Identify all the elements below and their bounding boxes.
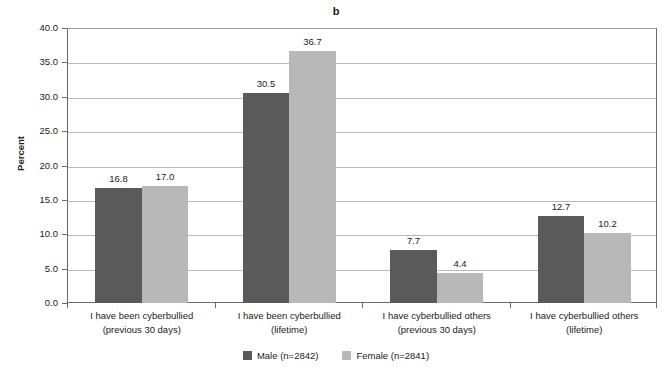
- legend-item-male[interactable]: Male (n=2842): [243, 350, 319, 361]
- bar-value-label: 36.7: [279, 36, 346, 47]
- gridline: [68, 63, 656, 64]
- bar-female-3: [584, 233, 631, 303]
- legend-swatch-icon: [342, 351, 351, 360]
- y-axis-label: 25.0: [6, 125, 58, 136]
- chart-figure: b Percent 0.05.010.015.020.025.030.035.0…: [0, 0, 672, 375]
- y-axis-label: 0.0: [6, 297, 58, 308]
- category-label-line2: (previous 30 days): [68, 323, 216, 337]
- x-axis-tick: [67, 303, 68, 308]
- chart-title: b: [0, 5, 672, 17]
- bar-value-label: 10.2: [574, 218, 641, 229]
- gridline: [68, 132, 656, 133]
- category-label-line1: I have cyberbullied others: [383, 310, 491, 321]
- x-axis-category-label: I have cyberbullied others(previous 30 d…: [363, 309, 511, 336]
- y-axis-label: 35.0: [6, 56, 58, 67]
- x-axis-category-label: I have been cyberbullied(previous 30 day…: [68, 309, 216, 336]
- bar-male-0: [95, 188, 142, 304]
- x-axis-category-label: I have cyberbullied others(lifetime): [511, 309, 659, 336]
- x-axis-category-label: I have been cyberbullied(lifetime): [216, 309, 364, 336]
- x-axis-tick: [362, 303, 363, 308]
- y-axis-label: 5.0: [6, 263, 58, 274]
- legend-item-female[interactable]: Female (n=2841): [342, 350, 429, 361]
- y-axis-label: 20.0: [6, 160, 58, 171]
- y-axis-label: 40.0: [6, 22, 58, 33]
- category-label-line1: I have cyberbullied others: [530, 310, 638, 321]
- category-label-line2: (previous 30 days): [363, 323, 511, 337]
- y-axis-label: 10.0: [6, 228, 58, 239]
- legend-swatch-icon: [243, 351, 252, 360]
- legend-label: Female (n=2841): [356, 350, 429, 361]
- x-axis-tick: [656, 303, 657, 308]
- bar-value-label: 7.7: [380, 235, 447, 246]
- category-label-line1: I have been cyberbullied: [90, 310, 193, 321]
- gridline: [68, 167, 656, 168]
- legend-label: Male (n=2842): [257, 350, 319, 361]
- category-label-line1: I have been cyberbullied: [238, 310, 341, 321]
- y-axis-label: 15.0: [6, 194, 58, 205]
- x-axis-tick: [510, 303, 511, 308]
- bar-value-label: 12.7: [528, 201, 595, 212]
- bar-female-1: [289, 51, 336, 303]
- gridline: [68, 98, 656, 99]
- bar-value-label: 4.4: [427, 258, 494, 269]
- x-axis-tick: [215, 303, 216, 308]
- bar-male-1: [243, 93, 290, 303]
- category-label-line2: (lifetime): [511, 323, 659, 337]
- chart-legend: Male (n=2842)Female (n=2841): [0, 350, 672, 361]
- bar-female-2: [437, 273, 484, 303]
- bar-female-0: [142, 186, 189, 303]
- y-axis-label: 30.0: [6, 91, 58, 102]
- category-label-line2: (lifetime): [216, 323, 364, 337]
- bar-value-label: 17.0: [132, 171, 199, 182]
